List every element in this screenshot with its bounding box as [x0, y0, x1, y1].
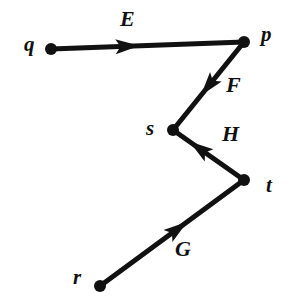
node-dot-r[interactable] [94, 280, 106, 292]
edge-label-g: G [175, 238, 191, 260]
node-dot-p[interactable] [238, 36, 250, 48]
edge-label-h: H [222, 123, 239, 145]
node-label-r: r [73, 267, 81, 288]
node-label-p: p [261, 24, 272, 45]
node-label-s: s [146, 118, 154, 139]
graph-canvas [0, 0, 295, 307]
edge-label-e: E [120, 8, 135, 30]
node-dot-t[interactable] [238, 174, 250, 186]
edges-layer [51, 42, 244, 286]
arrowheads-layer [115, 38, 222, 242]
node-label-q: q [24, 34, 35, 55]
edge-line-e [51, 42, 244, 49]
graph-diagram: EFHGqpstr [0, 0, 295, 307]
node-dot-q[interactable] [45, 43, 57, 55]
node-label-t: t [266, 175, 272, 196]
edge-label-f: F [226, 74, 241, 96]
node-dot-s[interactable] [167, 124, 179, 136]
